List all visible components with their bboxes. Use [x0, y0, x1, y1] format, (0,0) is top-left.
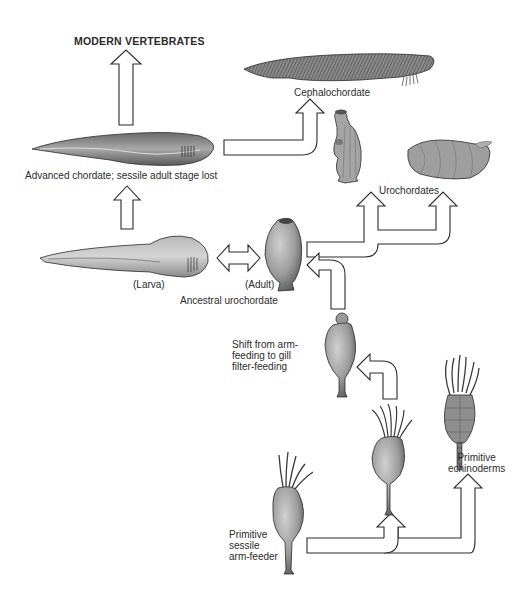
label-ancestral-urochordate: Ancestral urochordate — [180, 295, 278, 306]
arrow-to-modern-vertebrates — [111, 50, 141, 125]
urochordate-free-swimming-illustration — [408, 140, 492, 180]
label-adult: (Adult) — [245, 279, 274, 290]
arrow-larva-to-advanced-chordate — [114, 186, 140, 229]
gill-filter-feeder-illustration — [325, 313, 356, 397]
arrow-larva-adult-bidirectional — [217, 245, 260, 271]
label-urochordates: Urochordates — [379, 185, 439, 196]
arrow-to-urochordates — [307, 192, 457, 257]
label-larva: (Larva) — [133, 279, 165, 290]
advanced-chordate-illustration — [32, 132, 214, 165]
urochordate-sessile-illustration — [334, 110, 361, 184]
primitive-arm-feeder-illustration — [273, 452, 313, 574]
label-primitive-arm-feeder: Primitive sessile arm-feeder — [229, 529, 278, 562]
arrow-gill-feeder-to-adult — [307, 253, 345, 309]
label-advanced-chordate: Advanced chordate; sessile adult stage l… — [25, 170, 217, 181]
label-modern-vertebrates: MODERN VERTEBRATES — [74, 36, 205, 47]
arrow-intermediate-to-gill-feeder — [357, 354, 397, 399]
label-primitive-echinoderms: Primitive echinoderms — [448, 452, 505, 474]
label-shift-feeding: Shift from arm- feeding to gill filter-f… — [232, 339, 298, 372]
arrow-to-cephalochordate — [224, 99, 324, 155]
phylogeny-diagram: MODERN VERTEBRATES Cephalochordate Advan… — [0, 0, 523, 598]
intermediate-arm-feeder-illustration — [372, 404, 412, 515]
label-cephalochordate: Cephalochordate — [294, 87, 370, 98]
cephalochordate-illustration — [244, 54, 434, 86]
larva-illustration — [40, 236, 208, 277]
